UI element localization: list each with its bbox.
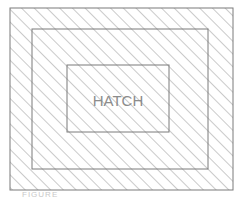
- figure-caption: FIGURE: [22, 190, 58, 199]
- hatch-diagram: HATCH: [0, 0, 244, 201]
- hatch-label: HATCH: [93, 92, 144, 109]
